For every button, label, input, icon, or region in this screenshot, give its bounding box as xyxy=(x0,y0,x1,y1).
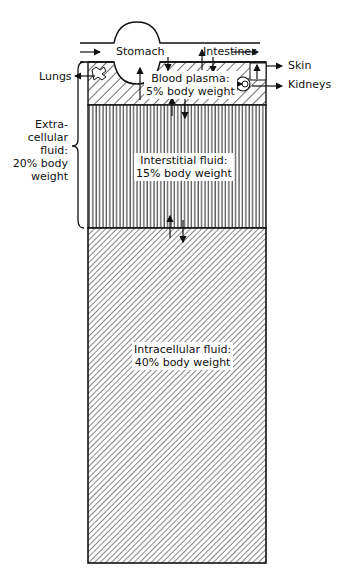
kidneys-label: Kidneys xyxy=(288,78,331,91)
intracellular-label: Intracellular fluid: 40% body weight xyxy=(132,342,233,370)
intracellular-region xyxy=(88,228,266,563)
skin-label: Skin xyxy=(288,59,311,72)
blood-plasma-label: Blood plasma: 5% body weight xyxy=(144,71,237,99)
label-line: 15% body weight xyxy=(136,167,232,180)
interstitial-label: Interstitial fluid: 15% body weight xyxy=(134,153,234,181)
extracellular-line: 20% body xyxy=(8,157,68,170)
extracellular-line: weight xyxy=(8,170,68,183)
lungs-label: Lungs xyxy=(39,70,72,83)
extracellular-label: Extra- cellular fluid: 20% body weight xyxy=(8,118,68,183)
label-line: 5% body weight xyxy=(146,85,235,98)
label-line: Intracellular fluid: xyxy=(134,343,231,356)
label-line: 40% body weight xyxy=(134,356,231,369)
label-line: Blood plasma: xyxy=(146,72,235,85)
label-line: Interstitial fluid: xyxy=(136,154,232,167)
extracellular-line: cellular xyxy=(8,131,68,144)
skin-box xyxy=(250,63,266,80)
extracellular-line: Extra- xyxy=(8,118,68,131)
gi-tract-upper-wall xyxy=(80,22,260,43)
stomach-label: Stomach xyxy=(116,45,165,58)
extracellular-brace xyxy=(72,62,84,228)
intestines-label: Intestines xyxy=(203,45,257,58)
extracellular-line: fluid: xyxy=(8,144,68,157)
